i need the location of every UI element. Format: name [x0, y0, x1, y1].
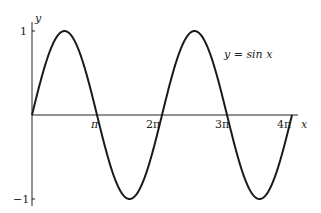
y-tick-label-1: 1 — [20, 25, 27, 38]
x-tick-label-2pi: 2π — [146, 118, 160, 131]
x-tick-label-pi: π — [90, 118, 99, 131]
x-tick-label-3pi: 3π — [215, 118, 229, 131]
x-tick-label-4pi: 4π — [277, 118, 291, 131]
y-axis-label: y — [34, 12, 42, 25]
x-axis-label: x — [301, 118, 308, 131]
sine-chart: y 1 −1 π 2π 3π 4π x y = sin x — [0, 0, 321, 213]
y-tick-label-neg1: −1 — [13, 193, 29, 206]
equation-annotation: y = sin x — [223, 48, 273, 61]
